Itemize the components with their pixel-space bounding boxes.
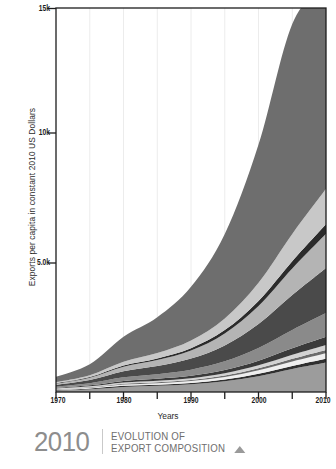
- footer-caption-line1: EVOLUTION OF: [111, 430, 245, 442]
- footer-caption-line2: EXPORT COMPOSITION: [111, 442, 225, 454]
- footer-caption: EVOLUTION OF EXPORT COMPOSITION: [111, 428, 245, 454]
- x-axis-title: Years: [0, 411, 336, 421]
- figure-footer: 2010 EVOLUTION OF EXPORT COMPOSITION: [34, 428, 257, 456]
- footer-year: 2010: [34, 428, 95, 456]
- figure-root: Exports per capita in constant 2010 US D…: [0, 0, 336, 469]
- x-tick-label-2010: 2010: [316, 396, 331, 405]
- x-tick-label-1970: 1970: [51, 396, 66, 405]
- footer-caption-line2-row: EXPORT COMPOSITION: [111, 442, 245, 454]
- footer-divider: [102, 429, 103, 454]
- y-axis-ticks: [48, 9, 56, 264]
- x-tick-label-1990: 1990: [184, 396, 199, 405]
- x-tick-label-2000: 2000: [251, 396, 266, 405]
- triangle-up-icon: [235, 446, 246, 453]
- x-tick-label-1980: 1980: [116, 396, 131, 405]
